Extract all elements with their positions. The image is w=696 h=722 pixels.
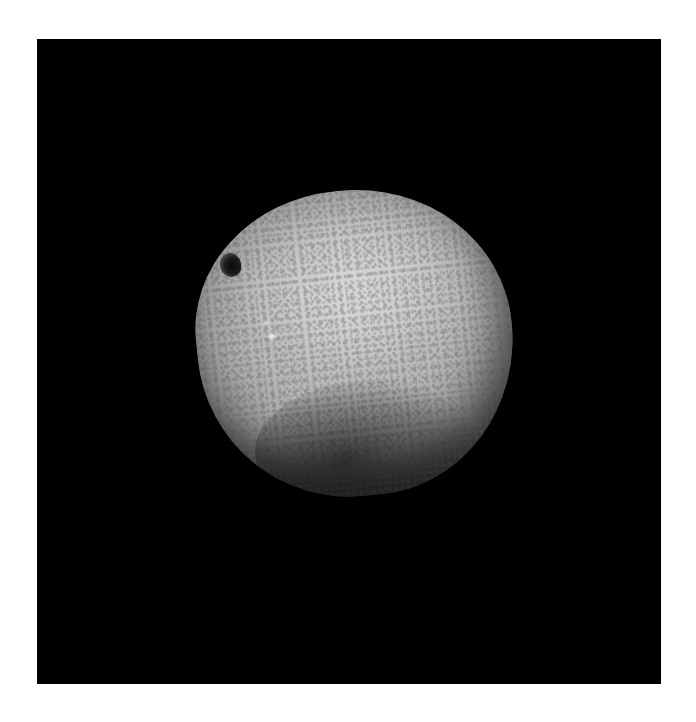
- photo-frame: Photograph of a pale grey speckled stone…: [37, 39, 661, 684]
- stone-apple: [182, 174, 528, 511]
- image-description: Photograph of a pale grey speckled stone…: [37, 39, 38, 40]
- specular-highlight: [262, 321, 270, 324]
- page: Photograph of a pale grey speckled stone…: [0, 0, 696, 722]
- specular-highlight: [269, 334, 275, 339]
